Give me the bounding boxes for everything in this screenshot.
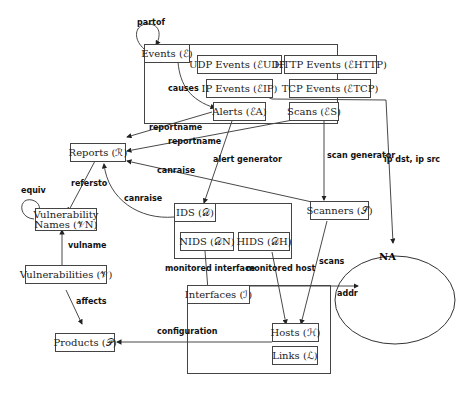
ip-events-node[interactable]: IP Events (ℰIP) — [206, 79, 273, 98]
edge-label-partof: partof — [137, 18, 165, 27]
udp-events-node[interactable]: UDP Events (ℰUDP) — [197, 55, 282, 74]
scans-node[interactable]: Scans (ℰS) — [289, 102, 339, 121]
edge-label-reportname-2: reportname — [168, 137, 221, 146]
vulnerability-names-node[interactable]: VulnerabilityNames (𝒱N) — [35, 208, 97, 231]
http-events-node[interactable]: HTTP Events (ℰHTTP) — [284, 55, 377, 74]
edge-label-configuration: configuration — [157, 327, 217, 336]
alerts-node[interactable]: Alerts (ℰA) — [213, 102, 266, 121]
nids-label: NIDS (𝒟N) — [179, 237, 234, 247]
edge-label-addr: addr — [337, 289, 358, 298]
edge-label-affects: affects — [76, 297, 107, 306]
edge-label-reportname-1: reportname — [149, 123, 202, 132]
scanners-node[interactable]: Scanners (𝒮) — [310, 201, 369, 220]
vulnerabilities-node[interactable]: Vulnerabilities (𝒱) — [25, 265, 107, 284]
alerts-label: Alerts (ℰA) — [212, 107, 266, 117]
products-label: Products (𝒫) — [53, 338, 116, 348]
events-label: Events (ℰ) — [141, 49, 192, 59]
edge-label-ip-dst-src: ip dst, ip src — [384, 155, 440, 164]
edge-label-canraise-1: canraise — [157, 166, 195, 175]
edge-label-scans: scans — [319, 257, 344, 266]
events-node[interactable]: Events (ℰ) — [144, 44, 190, 63]
edge-label-vulname: vulname — [68, 241, 107, 250]
edge-label-canraise-2: canraise — [124, 194, 162, 203]
edge-label-causes: causes — [168, 84, 199, 93]
ids-label: IDS (𝒟) — [176, 208, 214, 218]
interfaces-label: Interfaces (ℐ) — [185, 290, 252, 300]
network-ellipse — [335, 256, 455, 344]
hids-label: HIDS (𝒟H) — [236, 237, 291, 247]
hosts-node[interactable]: Hosts (ℋ) — [272, 323, 319, 342]
hids-node[interactable]: HIDS (𝒟H) — [238, 232, 290, 251]
vulnerabilities-label: Vulnerabilities (𝒱) — [20, 270, 113, 280]
links-label: Links (ℒ) — [272, 351, 317, 361]
reports-node[interactable]: Reports (ℛ) — [70, 143, 126, 162]
edge-label-refersto: refersto — [71, 179, 107, 188]
edge-label-monitored-host: monitored host — [246, 264, 315, 273]
products-node[interactable]: Products (𝒫) — [55, 333, 115, 352]
vulnerability-names-line2: Names (𝒱N) — [35, 220, 98, 230]
http-events-label: HTTP Events (ℰHTTP) — [274, 60, 387, 70]
tcp-events-label: TCP Events (ℰTCP) — [282, 84, 379, 94]
ids-node[interactable]: IDS (𝒟) — [174, 203, 216, 222]
tcp-events-node[interactable]: TCP Events (ℰTCP) — [289, 79, 371, 98]
hosts-label: Hosts (ℋ) — [271, 328, 321, 338]
nids-node[interactable]: NIDS (𝒟N) — [180, 232, 234, 251]
edge-label-equiv: equiv — [21, 186, 46, 195]
er-diagram: Events (ℰ) UDP Events (ℰUDP) HTTP Events… — [0, 0, 470, 395]
scans-label: Scans (ℰS) — [287, 107, 341, 117]
edge-label-monitored-interface: monitored interface — [165, 264, 255, 273]
interfaces-node[interactable]: Interfaces (ℐ) — [187, 285, 250, 304]
network-label: NA — [379, 251, 396, 262]
links-node[interactable]: Links (ℒ) — [272, 346, 318, 365]
reports-label: Reports (ℛ) — [69, 148, 128, 158]
scanners-label: Scanners (𝒮) — [306, 206, 372, 216]
edge-label-alert-generator: alert generator — [213, 155, 282, 164]
vulnerability-names-line1: Vulnerability — [34, 210, 99, 220]
ip-events-label: IP Events (ℰIP) — [202, 84, 278, 94]
